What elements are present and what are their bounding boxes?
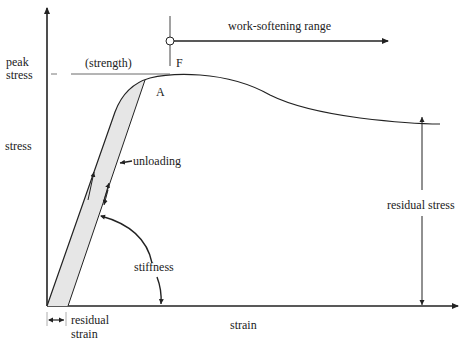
hysteresis-band (47, 80, 145, 306)
stiffness-label: stiffness (134, 260, 174, 274)
residual-stress-label: residual stress (387, 198, 455, 212)
unloading-label: unloading (133, 154, 181, 168)
peak-stress-label-2: stress (6, 68, 33, 82)
stiffness-arc (101, 216, 152, 263)
point-f-circle (166, 37, 174, 45)
peak-stress-label-1: peak (6, 55, 29, 69)
residual-strain-label-1: residual (71, 313, 110, 327)
work-softening-label: work-softening range (228, 19, 331, 33)
stiffness-arc-lower (157, 277, 161, 304)
point-a-label: A (156, 85, 165, 99)
unloading-pointer (120, 161, 132, 163)
point-f-label: F (176, 56, 183, 70)
strength-label: (strength) (85, 56, 132, 70)
stress-strain-diagram: peak stress (strength) F A work-softenin… (0, 0, 461, 343)
y-axis-label: stress (5, 139, 32, 153)
residual-strain-label-2: strain (71, 327, 98, 341)
x-axis-label: strain (230, 318, 257, 332)
